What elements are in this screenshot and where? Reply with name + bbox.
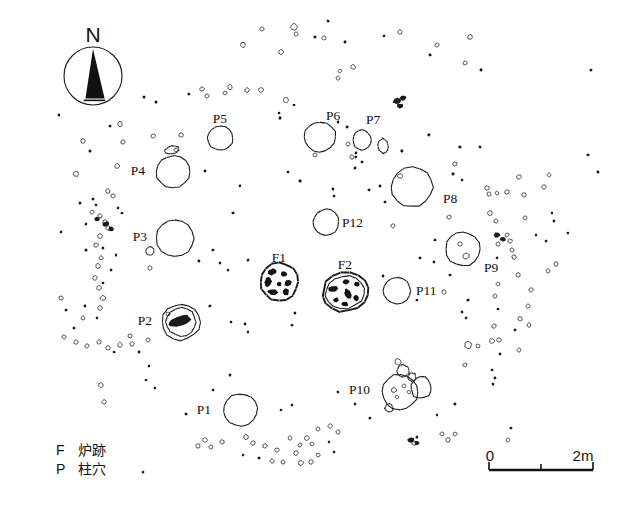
north-label: N — [85, 23, 100, 46]
stone-filled — [313, 36, 316, 39]
stone-filled — [346, 125, 349, 128]
post-hole-label-P1: P1 — [197, 402, 211, 417]
legend-row-F: F炉跡 — [56, 442, 106, 458]
legend-term-P: 柱穴 — [78, 461, 106, 477]
post-hole-label-P7: P7 — [366, 112, 381, 127]
post-hole-label-P5: P5 — [213, 111, 228, 126]
legend-code-F: F — [56, 442, 65, 458]
post-hole-label-P3: P3 — [133, 229, 148, 244]
hearth-label-F2: F2 — [338, 257, 352, 272]
scale-bar-left-label: 0 — [486, 447, 494, 464]
post-hole-label-P2: P2 — [138, 313, 152, 328]
post-hole-label-P12: P12 — [342, 215, 363, 230]
post-hole-label-P9: P9 — [484, 260, 499, 275]
legend-term-F: 炉跡 — [78, 442, 106, 458]
post-hole-label-P4: P4 — [131, 163, 146, 178]
site-plan-figure: P1P2P3P4P5P6P7P8P9P10P11P12 F1F2 N F炉跡P柱… — [0, 0, 630, 510]
site-plan-canvas: P1P2P3P4P5P6P7P8P9P10P11P12 F1F2 N F炉跡P柱… — [0, 0, 630, 510]
post-hole-label-P8: P8 — [443, 191, 458, 206]
post-hole-label-P6: P6 — [326, 108, 341, 123]
legend-row-P: P柱穴 — [56, 461, 106, 477]
post-hole-label-P10: P10 — [349, 382, 370, 397]
scale-bar-right-label: 2m — [573, 447, 594, 464]
post-hole-label-P11: P11 — [416, 283, 437, 298]
legend-code-P: P — [56, 461, 65, 477]
hearth-label-F1: F1 — [272, 250, 286, 265]
